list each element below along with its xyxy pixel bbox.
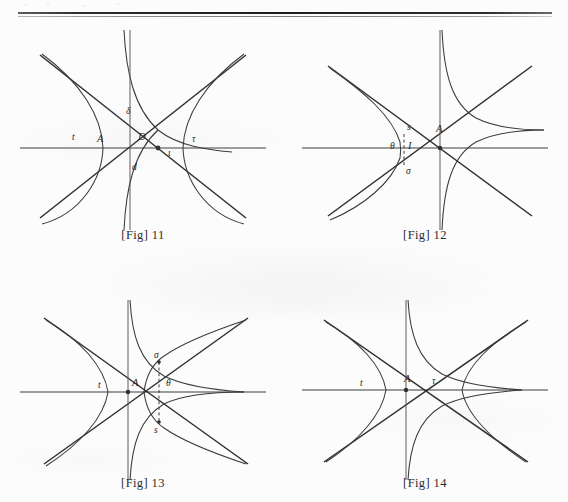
hyperbola-lower-branch-mirror xyxy=(442,130,544,230)
figure-12-caption: [Fig] 12 xyxy=(300,228,550,243)
label-sigma: σ xyxy=(406,166,411,176)
figure-13: t A σ θ s [Fig] 13 xyxy=(18,300,268,500)
label-s: s xyxy=(407,122,411,132)
label-tau: τ xyxy=(432,376,436,386)
label-iota: ι xyxy=(168,148,171,158)
figure-12: s A θ I σ [Fig] 12 xyxy=(300,30,550,255)
figure-13-caption: [Fig] 13 xyxy=(18,476,268,491)
label-D: D xyxy=(137,131,146,142)
label-theta: θ xyxy=(166,378,171,388)
figure-14-caption: [Fig] 14 xyxy=(300,476,550,491)
label-delta: δ xyxy=(126,106,131,116)
figure-14: t A τ [Fig] 14 xyxy=(300,300,550,500)
label-A: A xyxy=(96,133,104,144)
hyperbola-left-branch xyxy=(46,320,108,466)
figure-14-drawing: t A τ xyxy=(300,300,550,480)
label-theta: θ xyxy=(390,141,395,151)
centre-node xyxy=(126,390,130,394)
label-t: t xyxy=(98,380,101,390)
label-s: s xyxy=(154,425,158,435)
figure-11-drawing: t A D δ d τ ι xyxy=(18,30,268,230)
label-sigma: σ xyxy=(154,350,159,360)
figure-13-drawing: t A σ θ s xyxy=(18,300,268,480)
figure-12-drawing: s A θ I σ xyxy=(300,30,550,230)
bleed-through-specks xyxy=(22,1,142,9)
top-double-rule xyxy=(18,12,552,17)
intersection-node xyxy=(156,146,161,151)
hyperbola-left-branch xyxy=(326,322,386,462)
rule-thin-line xyxy=(18,16,552,17)
hyperbola-upper-branch xyxy=(442,30,544,130)
label-A: A xyxy=(131,377,139,388)
hyperbola-upper-branch xyxy=(408,300,522,390)
figure-11-caption: [Fig] 11 xyxy=(18,228,268,243)
label-d: d xyxy=(132,162,137,172)
scanned-page: t A D δ d τ ι [Fig] 11 s A θ I xyxy=(0,0,568,502)
label-A: A xyxy=(435,123,443,134)
s-node xyxy=(157,420,161,424)
label-t: t xyxy=(72,132,75,142)
centre-node xyxy=(404,388,408,392)
label-I: I xyxy=(407,140,412,151)
figure-11: t A D δ d τ ι [Fig] 11 xyxy=(18,30,268,255)
sigma-node xyxy=(157,360,161,364)
intersection-node xyxy=(438,146,442,150)
hyperbola-lower-branch xyxy=(408,390,522,480)
label-t: t xyxy=(360,378,363,388)
label-A: A xyxy=(403,373,411,384)
label-tau: τ xyxy=(192,134,196,144)
